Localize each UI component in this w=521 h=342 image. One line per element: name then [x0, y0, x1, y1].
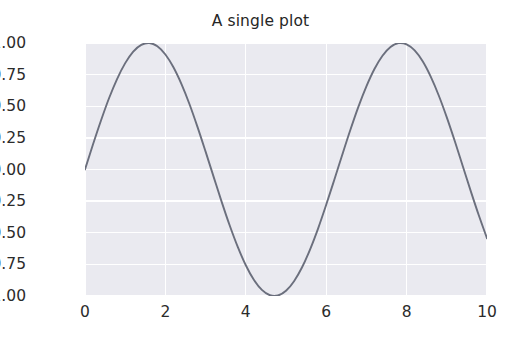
x-tick-label-5: 10: [477, 303, 497, 321]
x-tick-label-4: 8: [402, 303, 412, 321]
x-tick-label-1: 2: [160, 303, 170, 321]
y-tick-label-5: −0.25: [0, 192, 26, 210]
y-tick-label-1: 0.75: [0, 66, 26, 84]
y-tick-label-6: −0.50: [0, 224, 26, 242]
y-tick-label-7: −0.75: [0, 255, 26, 273]
chart-title: A single plot: [0, 12, 521, 30]
x-tick-label-0: 0: [80, 303, 90, 321]
y-tick-label-0: 1.00: [0, 34, 26, 52]
plot-area: [85, 43, 487, 296]
line-series-sinx: [85, 43, 487, 296]
x-tick-label-2: 4: [241, 303, 251, 321]
chart-figure: A single plot 1.000.750.500.250.00−0.25−…: [0, 0, 521, 342]
y-tick-label-2: 0.50: [0, 97, 26, 115]
x-tick-label-3: 6: [321, 303, 331, 321]
y-tick-label-4: 0.00: [0, 161, 26, 179]
y-tick-label-8: −1.00: [0, 287, 26, 305]
y-tick-label-3: 0.25: [0, 129, 26, 147]
